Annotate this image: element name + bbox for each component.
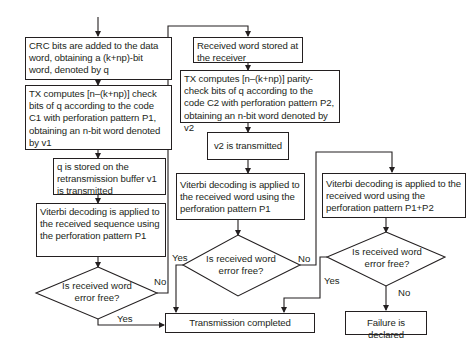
step-compute-check-bits-c1: TX computes [n–(k+np)] check bits of q a… [25, 85, 172, 150]
step-viterbi-p1-first-text: Viterbi decoding is applied to the recei… [40, 206, 160, 241]
terminal-failure-declared-text: Failure is declared [367, 317, 405, 340]
step-compute-check-bits-c1-text: TX computes [n–(k+np)] check bits of q a… [29, 88, 160, 148]
decision-1-text: Is received word error free? [58, 280, 136, 304]
step-viterbi-p1-second-text: Viterbi decoding is applied to the recei… [180, 179, 300, 214]
step-viterbi-p1-first: Viterbi decoding is applied to the recei… [36, 203, 166, 257]
step-viterbi-p1-second: Viterbi decoding is applied to the recei… [176, 173, 305, 220]
step-store-and-transmit-v1-text: q is stored on the retransmission buffer… [57, 161, 157, 196]
step-received-word-stored-text: Received word stored at the receiver [197, 40, 298, 63]
step-transmit-v2: v2 is transmitted [207, 132, 289, 160]
decision-2-text: Is received word error free? [202, 253, 280, 277]
step-add-crc-text: CRC bits are added to the data word, obt… [29, 40, 158, 75]
terminal-transmission-completed: Transmission completed [165, 313, 315, 333]
decision-2-no-label: No [298, 253, 310, 264]
decision-3-yes-label: Yes [324, 275, 340, 286]
step-transmit-v2-text: v2 is transmitted [214, 140, 282, 151]
step-store-and-transmit-v1: q is stored on the retransmission buffer… [53, 158, 166, 195]
decision-1-no-label: No [154, 276, 166, 287]
step-viterbi-p1p2-text: Viterbi decoding is applied to the recei… [326, 178, 461, 213]
decision-1-yes-label: Yes [117, 313, 133, 324]
step-add-crc: CRC bits are added to the data word, obt… [25, 37, 172, 80]
step-viterbi-p1p2: Viterbi decoding is applied to the recei… [322, 173, 466, 218]
step-compute-parity-c2: TX computes [n–(k+np)] parity-check bits… [180, 70, 340, 123]
decision-3-text: Is received word error free? [348, 246, 426, 270]
terminal-failure-declared: Failure is declared [345, 311, 427, 335]
decision-3-no-label: No [398, 287, 410, 298]
step-received-word-stored: Received word stored at the receiver [193, 37, 303, 63]
decision-2-yes-label: Yes [172, 252, 188, 263]
terminal-transmission-completed-text: Transmission completed [189, 317, 290, 328]
